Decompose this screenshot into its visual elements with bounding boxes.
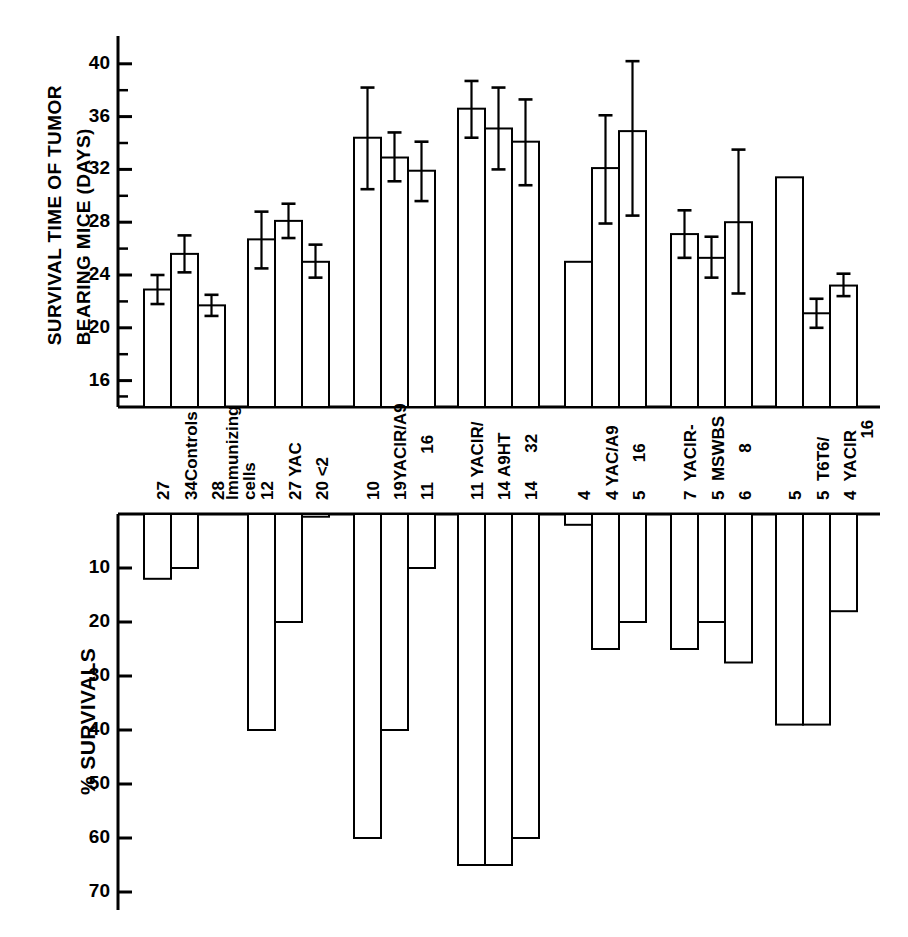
category-label-17: 5 T6T6/ — [815, 437, 832, 500]
percent-survival-bar — [458, 514, 485, 865]
survival-bar — [408, 171, 435, 407]
percent-survival-bar — [512, 514, 539, 838]
chart-canvas — [0, 0, 908, 937]
survival-bar — [302, 262, 329, 407]
top-y-tick-label: 32 — [62, 157, 110, 179]
percent-survival-bar — [408, 514, 435, 568]
figure-root: SURVIVAL TIME OF TUMOR BEARING MICE (DAY… — [0, 0, 908, 937]
category-label-g4c: 14 32 — [523, 434, 540, 500]
percent-survival-bar — [485, 514, 512, 865]
bottom-y-tick-label: 10 — [62, 556, 110, 578]
survival-bar — [671, 234, 698, 407]
category-label-12: 5 16 — [631, 443, 648, 500]
percent-survival-bar — [803, 514, 830, 725]
top-y-tick-label: 36 — [62, 105, 110, 127]
percent-survival-bar — [776, 514, 803, 725]
bottom-y-tick-label: 40 — [62, 718, 110, 740]
bottom-y-tick-label: 70 — [62, 880, 110, 902]
percent-survival-bar — [619, 514, 646, 622]
category-label-1: 34Controls — [183, 411, 200, 500]
percent-survival-bar — [565, 514, 592, 525]
category-label-4: 12 — [259, 481, 276, 500]
category-label-g4b: 14 A9HT — [496, 433, 513, 500]
bottom-y-tick-label: 60 — [62, 826, 110, 848]
survival-bar — [458, 109, 485, 407]
category-label-13: 7 YACIR- — [682, 424, 699, 500]
category-label-g4a: 11 YACIR/ — [469, 422, 486, 500]
category-label-14: 5 MSWBS — [710, 416, 727, 500]
percent-survival-bar — [592, 514, 619, 649]
survival-bar — [830, 286, 857, 407]
top-y-tick-label: 24 — [62, 263, 110, 285]
category-label-16: 5 — [787, 491, 804, 500]
survival-bar — [565, 262, 592, 407]
category-label-18: 4 YACIR 16 — [842, 420, 877, 500]
percent-survival-bar — [698, 514, 725, 622]
percent-survival-bar — [302, 514, 329, 517]
survival-bar — [275, 221, 302, 407]
percent-survival-bar — [171, 514, 198, 568]
percent-survival-bar — [144, 514, 171, 579]
category-label-0: 27 — [155, 481, 172, 500]
category-label-8: 19YACIR/A9 — [392, 403, 409, 500]
category-label-10: 4 — [576, 491, 593, 500]
percent-survival-bar — [275, 514, 302, 622]
category-label-5: 27 YAC — [287, 442, 304, 500]
survival-bar — [381, 158, 408, 407]
category-label-11: 4 YAC/A9 — [604, 425, 621, 500]
survival-bar — [198, 305, 225, 407]
bottom-y-tick-label: 50 — [62, 772, 110, 794]
percent-survival-bar — [354, 514, 381, 838]
category-label-6: 20 <2 — [314, 457, 331, 500]
percent-survival-bar — [725, 514, 752, 663]
category-label-3: Immunizing cells — [224, 406, 259, 500]
category-label-15: 6 8 — [737, 443, 754, 500]
top-y-tick-label: 20 — [62, 316, 110, 338]
survival-bar — [698, 258, 725, 407]
percent-survival-bar — [248, 514, 275, 730]
percent-survival-bar — [381, 514, 408, 730]
survival-bar — [171, 254, 198, 407]
survival-bar — [776, 177, 803, 407]
bottom-y-tick-label: 30 — [62, 664, 110, 686]
survival-bar — [144, 290, 171, 407]
bottom-y-tick-label: 20 — [62, 610, 110, 632]
top-y-tick-label: 40 — [62, 52, 110, 74]
category-label-9: 11 16 — [419, 435, 436, 500]
top-y-tick-label: 16 — [62, 369, 110, 391]
category-label-7: 10 — [365, 481, 382, 500]
percent-survival-bar — [671, 514, 698, 649]
top-y-tick-label: 28 — [62, 210, 110, 232]
percent-survival-bar — [830, 514, 857, 611]
